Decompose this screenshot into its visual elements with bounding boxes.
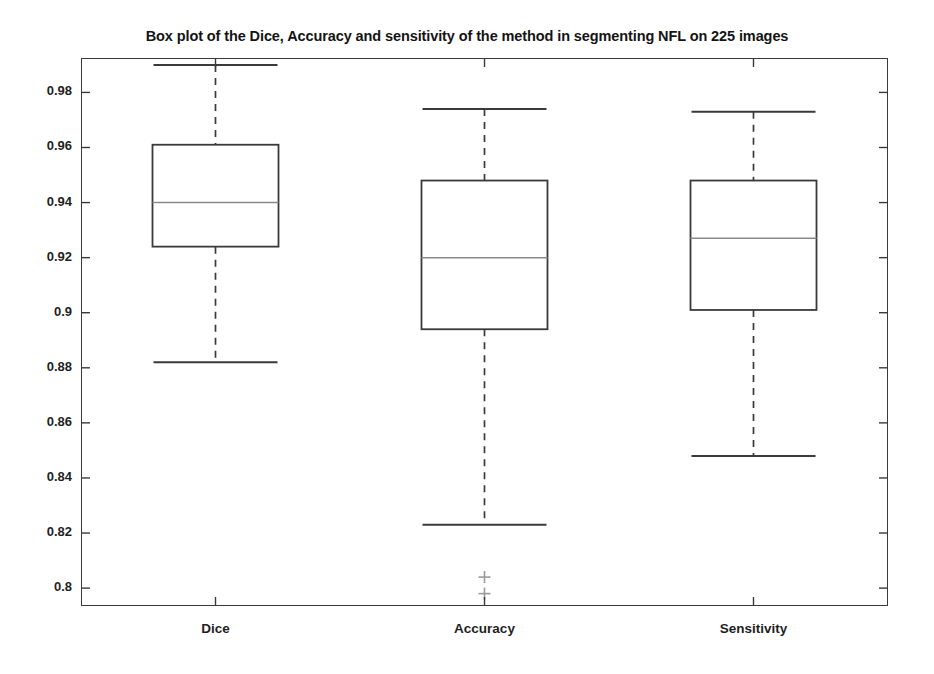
y-axis-tick-label: 0.92 <box>6 249 72 264</box>
y-axis-tick-label: 0.94 <box>6 194 72 209</box>
y-axis-tick-label: 0.9 <box>6 304 72 319</box>
y-axis-tick-label: 0.98 <box>6 83 72 98</box>
plot-area <box>81 58 888 606</box>
y-axis-tick-label: 0.82 <box>6 524 72 539</box>
y-axis-tick-label: 0.88 <box>6 359 72 374</box>
figure-canvas: Box plot of the Dice, Accuracy and sensi… <box>0 0 934 674</box>
x-axis-label-sensitivity: Sensitivity <box>664 621 844 636</box>
y-axis-tick-label: 0.8 <box>6 579 72 594</box>
y-axis-tick-label: 0.96 <box>6 138 72 153</box>
y-axis-tick-label: 0.86 <box>6 414 72 429</box>
chart-title: Box plot of the Dice, Accuracy and sensi… <box>0 28 934 44</box>
x-axis-label-accuracy: Accuracy <box>395 621 575 636</box>
y-axis-tick-label: 0.84 <box>6 469 72 484</box>
x-axis-label-dice: Dice <box>126 621 306 636</box>
